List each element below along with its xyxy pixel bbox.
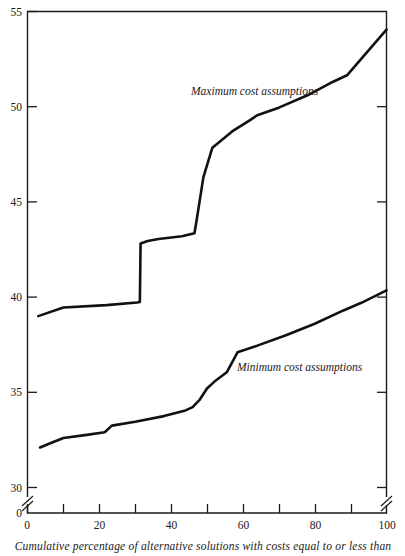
x-tick-label-20: 20 [94, 519, 106, 531]
chart-svg: 55 50 45 40 35 30 0 0 20 40 60 8 [0, 0, 405, 556]
series-line-maximum-cost [38, 30, 386, 317]
y-tick-label-40: 40 [11, 291, 23, 303]
x-tick-label-40: 40 [166, 519, 178, 531]
series-label-maximum-cost: Maximum cost assumptions [190, 85, 319, 98]
x-tick-label-100: 100 [378, 519, 396, 531]
x-axis-tick-labels: 0 20 40 60 80 100 [24, 519, 396, 531]
x-axis-ticks [28, 504, 352, 513]
x-axis-caption: Cumulative percentage of alternative sol… [15, 540, 392, 553]
y-tick-label-50: 50 [11, 101, 23, 113]
y-tick-label-30: 30 [11, 482, 23, 494]
chart-figure: 55 50 45 40 35 30 0 0 20 40 60 8 [0, 0, 405, 556]
x-tick-label-0: 0 [24, 519, 30, 531]
y-axis-tick-labels: 55 50 45 40 35 30 0 [11, 6, 23, 520]
y-tick-label-45: 45 [11, 196, 23, 208]
series-label-minimum-cost: Minimum cost assumptions [236, 361, 363, 374]
x-tick-label-60: 60 [238, 519, 250, 531]
x-tick-label-80: 80 [310, 519, 322, 531]
y-tick-label-0: 0 [16, 507, 22, 519]
y-tick-label-35: 35 [11, 386, 23, 398]
y-tick-label-55: 55 [11, 6, 23, 18]
